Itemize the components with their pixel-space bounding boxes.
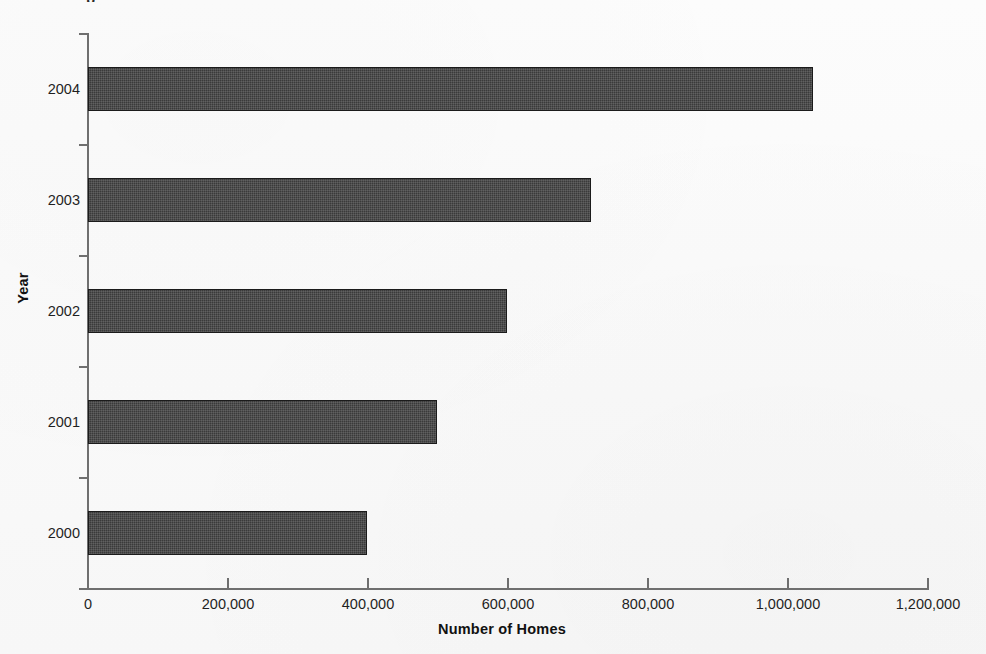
bar-2000	[88, 511, 367, 555]
clipped-header-text: p	[86, 0, 95, 2]
y-tick-label-2003: 2003	[36, 192, 80, 208]
x-tick-label-0: 0	[84, 596, 92, 612]
y-tick-label-2001: 2001	[36, 414, 80, 430]
bar-2002	[88, 289, 507, 333]
x-tick-label-2: 400,000	[342, 596, 394, 612]
y-tick-end	[79, 588, 88, 590]
x-tick-5	[787, 578, 789, 589]
bar-2004	[88, 67, 813, 111]
x-tick-label-5: 1,000,000	[756, 596, 821, 612]
y-tick-1	[79, 366, 88, 368]
x-tick-label-6: 1,200,000	[896, 596, 961, 612]
x-tick-3	[507, 578, 509, 589]
y-tick-0	[79, 477, 88, 479]
bar-2003	[88, 178, 591, 222]
y-tick-label-2000: 2000	[36, 525, 80, 541]
y-tick-label-2004: 2004	[36, 81, 80, 97]
x-axis-title: Number of Homes	[0, 621, 986, 637]
y-tick-3	[79, 144, 88, 146]
x-tick-label-1: 200,000	[202, 596, 254, 612]
x-tick-label-4: 800,000	[622, 596, 674, 612]
y-tick-4	[79, 33, 88, 35]
x-tick-4	[647, 578, 649, 589]
bar-2001	[88, 400, 437, 444]
bar-chart: p 0200,000400,000600,000800,0001,000,000…	[0, 0, 986, 654]
y-axis-title: Year	[15, 248, 31, 328]
x-tick-label-3: 600,000	[482, 596, 534, 612]
y-tick-2	[79, 255, 88, 257]
x-tick-6	[927, 578, 929, 589]
y-tick-label-2002: 2002	[36, 303, 80, 319]
x-tick-1	[227, 578, 229, 589]
x-tick-2	[367, 578, 369, 589]
x-axis-title-text: Number of Homes	[438, 621, 566, 637]
